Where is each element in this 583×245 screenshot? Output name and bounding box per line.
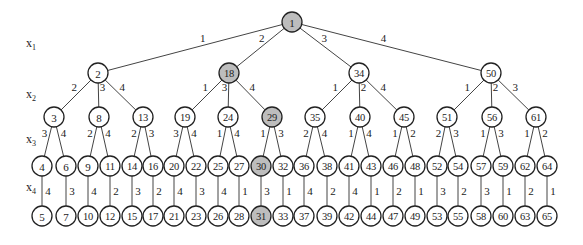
node-label: 56 [487, 112, 497, 123]
tree-node: 24 [218, 107, 238, 127]
node-label: 7 [63, 211, 69, 223]
edge-label: 3 [513, 81, 519, 93]
node-label: 29 [267, 112, 277, 123]
node-label: 45 [399, 112, 409, 123]
tree-node: 56 [482, 107, 502, 127]
edge-label: 3 [149, 127, 155, 139]
tree-node: 28 [229, 206, 249, 226]
edge-label: 2 [259, 32, 265, 44]
edge-label: 4 [381, 81, 387, 93]
node-label: 5 [39, 211, 45, 223]
tree-node: 26 [208, 206, 228, 226]
node-label: 54 [453, 161, 464, 172]
edge-label: 2 [436, 127, 442, 139]
tree-node: 27 [229, 156, 249, 176]
tree-node-highlighted: 18 [219, 63, 239, 83]
tree-edge [228, 83, 229, 107]
node-label: 36 [299, 161, 309, 172]
node-label: 50 [486, 68, 496, 79]
tree-node: 55 [448, 206, 468, 226]
edge-label: 4 [366, 127, 372, 139]
tree-node: 9 [78, 156, 98, 176]
node-label: 47 [388, 211, 398, 222]
node-label: 10 [83, 211, 93, 222]
tree-node: 7 [56, 206, 76, 226]
node-label: 44 [366, 211, 377, 222]
edge-label: 4 [91, 185, 97, 197]
node-label: 59 [498, 161, 508, 172]
edge-label: 4 [61, 127, 67, 139]
node-label: 38 [322, 161, 332, 172]
edge-label: 3 [199, 185, 205, 197]
edge-label: 1 [332, 81, 338, 93]
tree-node: 63 [515, 206, 535, 226]
level-label-x1: x1 [26, 36, 36, 52]
tree-node: 4 [32, 156, 52, 176]
tree-node: 58 [471, 206, 491, 226]
node-label: 57 [476, 161, 486, 172]
edge-label: 2 [461, 185, 467, 197]
tree-edge [302, 24, 482, 70]
node-label: 2 [95, 68, 101, 80]
edge-label: 1 [550, 185, 556, 197]
edge-label: 4 [322, 127, 328, 139]
tree-node: 50 [481, 63, 501, 83]
tree-node: 42 [339, 206, 359, 226]
node-label: 42 [344, 211, 354, 222]
edge-label: 1 [260, 127, 266, 139]
tree-node: 6 [56, 156, 76, 176]
tree-node: 65 [537, 206, 557, 226]
edge-label: 2 [131, 127, 137, 139]
nodes-layer: 1218345038131924293540455156614691114162… [32, 12, 557, 226]
tree-node: 54 [448, 156, 468, 176]
node-label: 61 [531, 112, 541, 123]
edge-label: 3 [440, 185, 446, 197]
tree-node: 13 [133, 107, 153, 127]
tree-node: 40 [350, 107, 370, 127]
tree-svg: 1234234134124123342423341413241412231312… [0, 0, 583, 245]
node-label: 35 [310, 112, 320, 123]
edge-label: 1 [348, 127, 354, 139]
tree-node: 36 [294, 156, 314, 176]
node-label: 31 [256, 211, 266, 222]
node-label: 20 [169, 161, 179, 172]
node-label: 49 [410, 211, 420, 222]
edge-label: 3 [135, 185, 141, 197]
edge-label: 3 [321, 32, 327, 44]
edge-label: 1 [418, 185, 424, 197]
tree-node-highlighted: 29 [262, 107, 282, 127]
tree-node: 38 [317, 156, 337, 176]
level-label-x2: x2 [26, 87, 36, 103]
tree-node: 44 [361, 206, 381, 226]
tree-node: 53 [427, 206, 447, 226]
edge-label: 3 [264, 185, 270, 197]
tree-node: 49 [405, 206, 425, 226]
tree-edge [491, 83, 492, 107]
node-label: 28 [234, 211, 244, 222]
node-label: 60 [498, 211, 508, 222]
node-label: 51 [442, 112, 452, 123]
node-label: 52 [432, 161, 442, 172]
edge-label: 3 [69, 185, 75, 197]
tree-node-highlighted: 31 [251, 206, 271, 226]
tree-node: 39 [317, 206, 337, 226]
node-label: 62 [520, 161, 530, 172]
edge-label: 2 [528, 185, 534, 197]
tree-node: 34 [349, 63, 369, 83]
tree-node: 3 [44, 107, 64, 127]
edge-label: 4 [177, 185, 183, 197]
tree-node: 51 [437, 107, 457, 127]
edge-label: 3 [484, 185, 490, 197]
edge-label: 4 [307, 185, 313, 197]
edge-label: 2 [410, 127, 416, 139]
node-label: 39 [322, 211, 332, 222]
node-label: 15 [127, 211, 137, 222]
tree-node-highlighted: 30 [251, 156, 271, 176]
edge-label: 1 [374, 185, 380, 197]
edge-label: 4 [381, 32, 387, 44]
node-label: 19 [180, 112, 190, 123]
node-label: 26 [213, 211, 223, 222]
node-label: 4 [39, 161, 45, 173]
node-label: 32 [278, 161, 288, 172]
edge-label: 3 [453, 127, 459, 139]
